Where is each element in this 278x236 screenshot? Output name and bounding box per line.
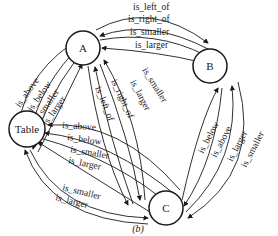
node-table: Table bbox=[9, 111, 45, 147]
label-a-b-2: is_smaller bbox=[130, 27, 170, 37]
label-a-b-1: is_right_of bbox=[128, 14, 171, 24]
label-a-b-0: is_left_of bbox=[133, 2, 170, 12]
node-b-label: B bbox=[206, 60, 213, 72]
label-a-b-3: is_larger bbox=[135, 40, 169, 50]
relation-graph: is_left_of is_right_of is_smaller is_lar… bbox=[0, 0, 278, 236]
node-a: A bbox=[66, 31, 100, 65]
node-table-label: Table bbox=[15, 123, 39, 135]
node-b: B bbox=[193, 49, 227, 83]
node-a-label: A bbox=[79, 42, 87, 54]
node-c-label: C bbox=[162, 202, 169, 214]
figure-caption: (b) bbox=[132, 223, 144, 235]
node-c: C bbox=[149, 191, 183, 225]
label-c-table-0: is_above bbox=[62, 120, 96, 132]
label-a-c-0: is_left_of bbox=[93, 85, 116, 123]
